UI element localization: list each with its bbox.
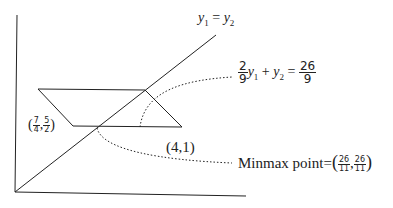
- rhs-den: 9: [304, 73, 312, 85]
- minmax-label: Minmax point=(2611,2611): [238, 152, 372, 173]
- close-paren: ): [366, 152, 372, 172]
- y-den: 11: [355, 165, 365, 173]
- point-right-label: (4,1): [166, 139, 195, 156]
- y-axis: [15, 15, 17, 192]
- plus-sign: +: [262, 64, 270, 79]
- coef-fraction: 29: [238, 60, 248, 85]
- close-paren: ): [50, 117, 55, 132]
- lhs-sub: 1: [204, 18, 209, 28]
- minmax-pointer-curve: [97, 128, 232, 163]
- var1-sub: 1: [254, 72, 259, 82]
- point-left-label: (74,52): [28, 117, 55, 134]
- line-label: y1 = y2: [198, 10, 234, 28]
- x-axis: [15, 192, 246, 196]
- x-den: 4: [34, 126, 39, 134]
- rhs-fraction: 269: [299, 60, 316, 85]
- rhs-sub: 2: [230, 18, 235, 28]
- diagonal-line: [15, 35, 216, 192]
- y-den: 2: [44, 126, 49, 134]
- x-fraction: 74: [33, 117, 40, 134]
- x-fraction: 2611: [338, 156, 350, 173]
- eq-sign: =: [287, 64, 295, 79]
- diagram-graphics: [0, 0, 393, 208]
- eq-sign: =: [212, 10, 220, 25]
- constraint-label: 29y1 + y2 = 269: [238, 60, 316, 85]
- x-den: 11: [339, 165, 349, 173]
- constraint-pointer-curve: [140, 77, 232, 127]
- y-fraction: 2611: [354, 156, 366, 173]
- minmax-prefix: Minmax point=: [238, 155, 332, 171]
- diagram-canvas: y1 = y2 29y1 + y2 = 269 (74,52) (4,1) Mi…: [0, 0, 393, 208]
- var2-sub: 2: [279, 72, 284, 82]
- coef-den: 9: [239, 73, 247, 85]
